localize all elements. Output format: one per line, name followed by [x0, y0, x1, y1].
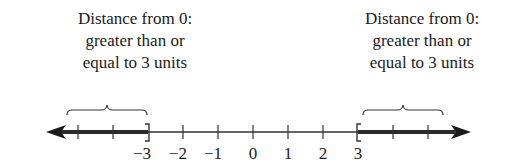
number-line: −3 −2 −1 0 1 2 3: [0, 0, 506, 167]
tick-label-neg2: −2: [169, 144, 187, 163]
brace-left-icon: [67, 105, 147, 115]
tick-label-neg3: −3: [133, 144, 151, 163]
tick-label-neg1: −1: [204, 144, 222, 163]
tick-label-2: 2: [319, 144, 328, 163]
brace-right-icon: [363, 105, 443, 115]
tick-label-1: 1: [284, 144, 293, 163]
tick-label-3: 3: [354, 144, 363, 163]
tick-label-0: 0: [249, 144, 258, 163]
